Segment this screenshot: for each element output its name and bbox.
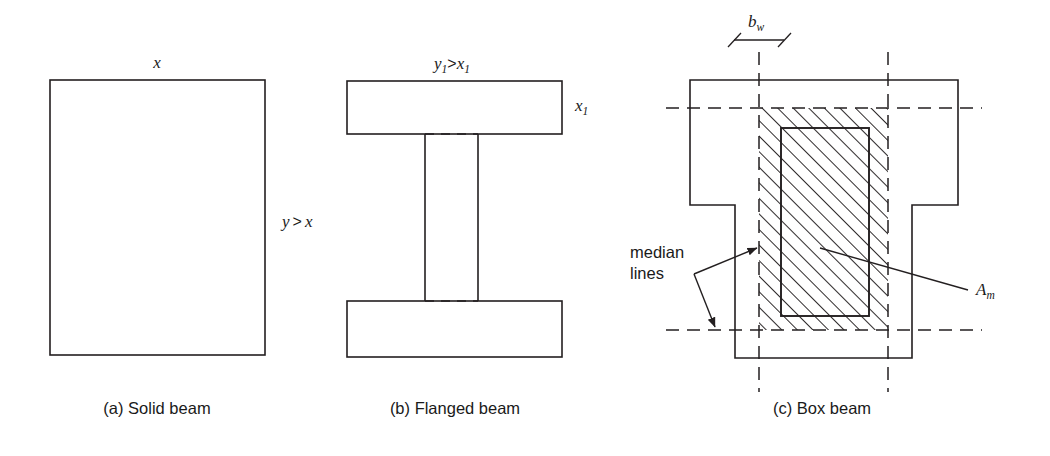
label-x-top: x [152,53,161,72]
panel-a-solid-beam: x y>x (a) Solid beam [50,53,313,417]
label-y-gt-x: y>x [280,212,313,231]
label-bw: bw [748,12,765,33]
label-bw-var: b [748,12,757,31]
label-y1-var: y [432,54,442,73]
label-x1-right-sub: 1 [583,105,589,117]
label-median-line1: median [630,243,684,261]
beam-cross-sections-svg: x y>x (a) Solid beam y1>x1 x1 (b) Flange… [0,0,1050,456]
median-leader-arrow-upper [694,248,757,274]
label-Am: Am [975,280,995,301]
label-bw-sub: w [757,21,765,33]
figure-canvas: x y>x (a) Solid beam y1>x1 x1 (b) Flange… [0,0,1050,456]
median-leader-arrow-lower [694,274,715,327]
caption-c: (c) Box beam [773,399,871,417]
label-Am-sub: m [986,289,994,301]
label-median-line2: lines [630,264,664,282]
solid-beam-rectangle [50,80,265,355]
label-y1-gt-x1: y1>x1 [432,54,470,75]
label-Am-var: A [975,280,987,299]
label-y-var: y [280,212,290,231]
flanged-beam-bottom-flange [347,301,562,357]
label-gt-op-b: > [447,55,456,72]
panel-b-flanged-beam: y1>x1 x1 (b) Flanged beam [347,54,588,417]
panel-c-box-beam: bw median lines Am (c) Box beam [630,12,995,417]
flanged-beam-top-flange [347,81,562,134]
caption-a: (a) Solid beam [103,399,210,417]
caption-b: (b) Flanged beam [390,399,520,417]
label-gt-op: > [293,213,302,230]
label-x1-right: x1 [574,96,588,117]
label-x-var: x [304,212,313,231]
label-x1-sub: 1 [464,63,470,75]
